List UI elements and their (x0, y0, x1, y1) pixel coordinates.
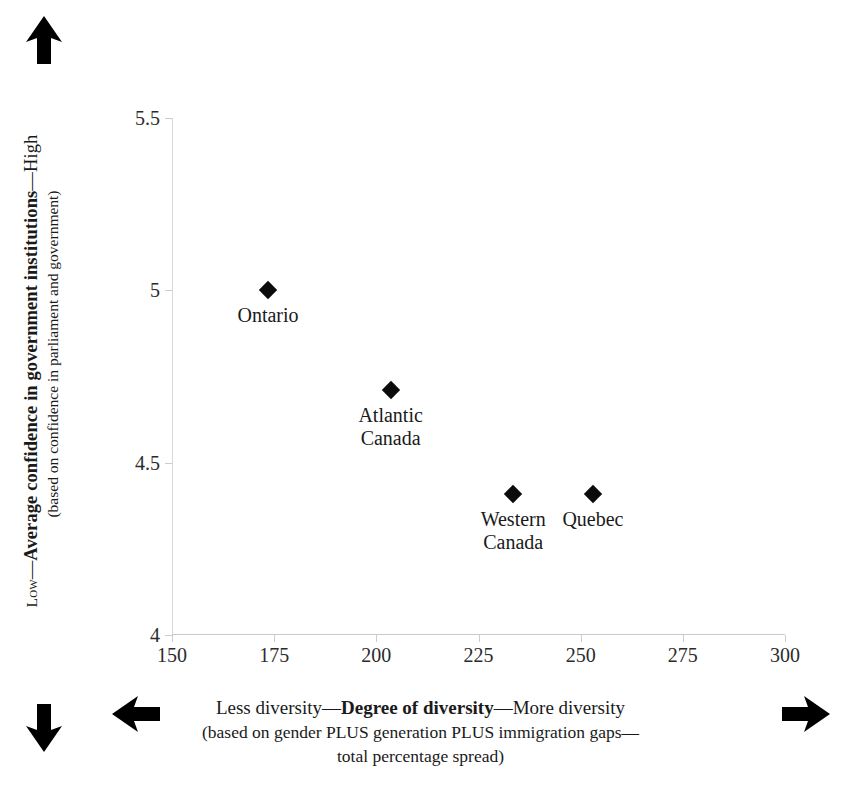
x-tick-mark (785, 635, 786, 642)
x-tick-label: 275 (668, 644, 698, 667)
y-tick-label: 5 (150, 279, 160, 302)
x-tick-mark (683, 635, 684, 642)
x-axis-label-bold: Degree of diversity (341, 697, 494, 718)
x-tick-mark (581, 635, 582, 642)
plot-area: 5.554.54 150175200225250275300 OntarioAt… (172, 118, 785, 635)
x-axis-less-text: Less diversity (216, 697, 322, 718)
x-tick-label: 225 (464, 644, 494, 667)
x-tick-label: 175 (259, 644, 289, 667)
y-axis-label-bold: Average confidence in government institu… (21, 191, 41, 561)
x-tick-label: 200 (361, 644, 391, 667)
x-axis-dash-more: — (494, 697, 513, 718)
y-tick-mark (165, 635, 172, 636)
y-axis-label: Low—Average confidence in government ins… (6, 31, 76, 711)
y-tick-mark (165, 290, 172, 291)
y-axis-dash-low: — (21, 561, 41, 580)
y-tick-label: 4.5 (135, 451, 160, 474)
arrow-up-icon (24, 16, 64, 64)
y-tick-mark (165, 463, 172, 464)
x-axis-label-main: Less diversity—Degree of diversity—More … (0, 697, 841, 719)
x-axis-sub-caption-line-1: (based on gender PLUS generation PLUS im… (0, 722, 841, 743)
data-point-label-line: Atlantic (358, 404, 422, 427)
x-axis-label: Less diversity—Degree of diversity—More … (0, 697, 841, 767)
y-tick-mark (165, 118, 172, 119)
data-point-label-line: Quebec (562, 508, 623, 531)
data-point-label-line: Ontario (237, 304, 298, 327)
y-axis-sub-caption: (based on confidence in parliament and g… (44, 190, 62, 517)
y-axis-low-word: Low (23, 579, 40, 607)
x-tick-label: 250 (566, 644, 596, 667)
y-axis-high-word: High (21, 135, 41, 172)
data-point-label-line: Canada (358, 427, 422, 450)
x-tick-label: 150 (157, 644, 187, 667)
data-point-label: Quebec (562, 508, 623, 531)
y-axis-label-main: Low—Average confidence in government ins… (21, 135, 42, 608)
x-axis-dash-less: — (322, 697, 341, 718)
data-point-label: Ontario (237, 304, 298, 327)
data-point-marker[interactable] (504, 484, 522, 502)
x-tick-mark (479, 635, 480, 642)
x-axis-sub-caption-line-2: total percentage spread) (0, 746, 841, 767)
y-tick-label: 5.5 (135, 107, 160, 130)
x-tick-label: 300 (770, 644, 800, 667)
x-tick-mark (376, 635, 377, 642)
data-point-marker[interactable] (381, 381, 399, 399)
data-point-label: AtlanticCanada (358, 404, 422, 450)
x-tick-mark (274, 635, 275, 642)
x-axis-more-text: More diversity (513, 697, 625, 718)
y-axis-line (172, 118, 173, 635)
data-point-label-line: Western (481, 508, 546, 531)
y-axis-dash-high: — (21, 172, 41, 191)
scatter-chart: Low—Average confidence in government ins… (0, 0, 841, 799)
data-point-label: WesternCanada (481, 508, 546, 554)
data-point-marker[interactable] (259, 281, 277, 299)
data-point-marker[interactable] (584, 484, 602, 502)
data-point-label-line: Canada (481, 531, 546, 554)
x-tick-mark (172, 635, 173, 642)
